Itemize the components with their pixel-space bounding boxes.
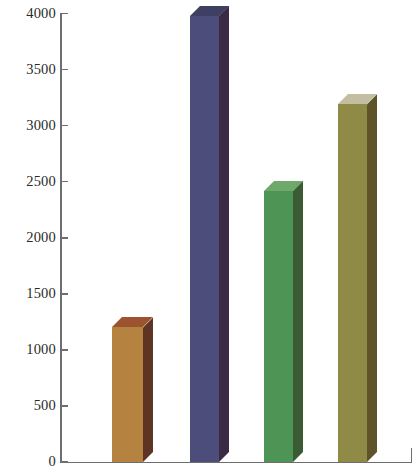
y-axis-tick-label: 4000 bbox=[2, 6, 56, 21]
bar-3-top-face bbox=[264, 181, 293, 191]
bar-2[interactable] bbox=[190, 6, 219, 462]
y-axis-tick bbox=[60, 405, 68, 407]
bar-3-side-face bbox=[293, 181, 303, 462]
bar-4[interactable] bbox=[338, 94, 367, 462]
bar-3-front-face bbox=[264, 191, 293, 462]
y-axis-tick bbox=[60, 69, 68, 71]
bar-4-top-face bbox=[338, 94, 367, 104]
bar-2-front-face bbox=[190, 16, 219, 462]
plot-area: 05001000150020002500300035004000 bbox=[0, 0, 413, 470]
y-axis-tick-label: 0 bbox=[2, 454, 56, 469]
bar-1[interactable] bbox=[112, 317, 143, 462]
bar-2-top-face bbox=[190, 6, 219, 16]
bar-4-front-face bbox=[338, 104, 367, 462]
y-axis-tick-label: 2000 bbox=[2, 230, 56, 245]
bar-2-side-face bbox=[219, 6, 229, 462]
y-axis-tick-label: 2500 bbox=[2, 174, 56, 189]
y-axis-tick-label: 3000 bbox=[2, 118, 56, 133]
y-axis-tick bbox=[60, 181, 68, 183]
y-axis-tick bbox=[60, 293, 68, 295]
y-axis-tick-label: 1000 bbox=[2, 342, 56, 357]
bar-3[interactable] bbox=[264, 181, 293, 462]
y-axis-tick bbox=[60, 13, 68, 15]
y-axis-tick bbox=[60, 237, 68, 239]
bar-1-side-face bbox=[143, 317, 153, 462]
bar-1-front-face bbox=[112, 327, 143, 462]
y-axis-tick bbox=[60, 125, 68, 127]
bar-1-top-face bbox=[112, 317, 143, 327]
y-axis-tick-label: 1500 bbox=[2, 286, 56, 301]
bar-chart: 05001000150020002500300035004000 bbox=[0, 0, 413, 470]
bar-4-side-face bbox=[367, 94, 377, 462]
y-axis-tick bbox=[60, 461, 68, 463]
y-axis-tick-label: 3500 bbox=[2, 62, 56, 77]
y-axis-tick-label: 500 bbox=[2, 398, 56, 413]
y-axis-tick bbox=[60, 349, 68, 351]
x-axis-right-tick bbox=[411, 448, 413, 462]
